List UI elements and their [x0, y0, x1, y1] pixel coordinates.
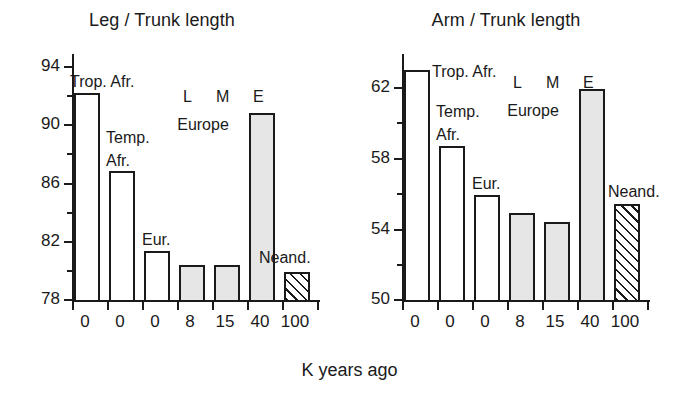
y-tick-major [394, 229, 403, 231]
annot-letter-m: M [546, 74, 559, 92]
x-tick [72, 302, 74, 310]
bar-temp-afr [109, 171, 135, 302]
annot-temp-afr-line1: Temp. [106, 128, 150, 147]
x-tick [472, 302, 474, 310]
annot-letter-e: E [583, 74, 594, 92]
y-tick-label: 82 [16, 231, 60, 251]
x-tick [402, 302, 404, 310]
x-tick-label: 100 [277, 312, 313, 332]
x-tick-label: 0 [467, 312, 503, 332]
annot-trop-afr: Trop. Afr. [432, 62, 496, 81]
chart-panel-leg-trunk: Leg / Trunk length 94 90 86 82 78 Trop. … [0, 0, 350, 360]
y-tick-label: 62 [350, 77, 390, 97]
y-tick-label: 54 [350, 219, 390, 239]
x-tick-label: 15 [537, 312, 573, 332]
x-tick-label: 40 [242, 312, 278, 332]
y-tick-major [64, 66, 73, 68]
bar-trop-afr [74, 93, 100, 302]
x-tick-label: 15 [207, 312, 243, 332]
y-tick-minor [67, 270, 73, 272]
y-tick-minor [397, 264, 403, 266]
annot-neand: Neand. [259, 248, 311, 267]
bar-l-europe [179, 265, 205, 302]
annot-letter-l: L [513, 74, 522, 92]
bar-neand [614, 204, 640, 302]
x-tick-label: 8 [172, 312, 208, 332]
annot-neand: Neand. [608, 182, 660, 201]
x-tick-label: 40 [572, 312, 608, 332]
x-tick [437, 302, 439, 310]
x-tick [212, 302, 214, 310]
annot-temp-afr-line1: Temp. [436, 102, 480, 121]
x-axis-title: K years ago [0, 360, 699, 381]
annot-eur: Eur. [472, 174, 500, 193]
annot-europe: Europe [168, 115, 238, 135]
x-tick [282, 302, 284, 310]
panel-title-leg-trunk: Leg / Trunk length [22, 10, 302, 31]
y-tick-minor [67, 153, 73, 155]
y-tick-minor [67, 95, 73, 97]
bar-l-europe [509, 213, 535, 302]
x-tick [542, 302, 544, 310]
x-tick-label: 0 [432, 312, 468, 332]
figure-canvas: Leg / Trunk length 94 90 86 82 78 Trop. … [0, 0, 699, 397]
bar-eur [144, 251, 170, 302]
annot-temp-afr-line2: Afr. [106, 151, 130, 170]
bar-eur [474, 195, 500, 302]
y-tick-major [394, 158, 403, 160]
x-tick-label: 8 [502, 312, 538, 332]
annot-temp-afr-line2: Afr. [436, 125, 460, 144]
annot-europe: Europe [498, 101, 568, 121]
x-tick [142, 302, 144, 310]
y-tick-label: 86 [16, 173, 60, 193]
bar-temp-afr [439, 146, 465, 302]
bar-m-europe [544, 222, 570, 302]
x-tick [507, 302, 509, 310]
y-tick-major [394, 87, 403, 89]
y-tick-major [64, 124, 73, 126]
y-tick-major [64, 241, 73, 243]
annot-eur: Eur. [142, 230, 170, 249]
panel-title-arm-trunk: Arm / Trunk length [356, 10, 656, 31]
x-tick [317, 302, 319, 310]
x-tick [107, 302, 109, 310]
x-tick [177, 302, 179, 310]
x-tick [647, 302, 649, 310]
annot-letter-e: E [253, 88, 264, 106]
bar-neand [284, 272, 310, 302]
x-tick [577, 302, 579, 310]
annot-letter-l: L [183, 88, 192, 106]
x-tick [612, 302, 614, 310]
annot-letter-m: M [216, 88, 229, 106]
y-tick-major [64, 299, 73, 301]
y-tick-label: 78 [16, 289, 60, 309]
y-tick-label: 58 [350, 148, 390, 168]
bar-m-europe [214, 265, 240, 302]
bar-e-europe [579, 89, 605, 302]
x-tick-label: 0 [102, 312, 138, 332]
y-tick-minor [397, 122, 403, 124]
y-tick-minor [397, 193, 403, 195]
x-tick [247, 302, 249, 310]
x-tick-label: 0 [67, 312, 103, 332]
y-tick-label: 90 [16, 114, 60, 134]
bar-trop-afr [404, 70, 430, 302]
bar-e-europe [249, 113, 275, 302]
chart-panel-arm-trunk: Arm / Trunk length 62 58 54 50 Trop. Afr… [350, 0, 699, 360]
x-tick-label: 100 [607, 312, 643, 332]
y-tick-major [64, 183, 73, 185]
annot-trop-afr: Trop. Afr. [70, 72, 134, 91]
y-tick-major [394, 299, 403, 301]
y-tick-label: 50 [350, 289, 390, 309]
y-tick-minor [67, 212, 73, 214]
x-tick-label: 0 [137, 312, 173, 332]
x-tick-label: 0 [397, 312, 433, 332]
y-tick-label: 94 [16, 56, 60, 76]
